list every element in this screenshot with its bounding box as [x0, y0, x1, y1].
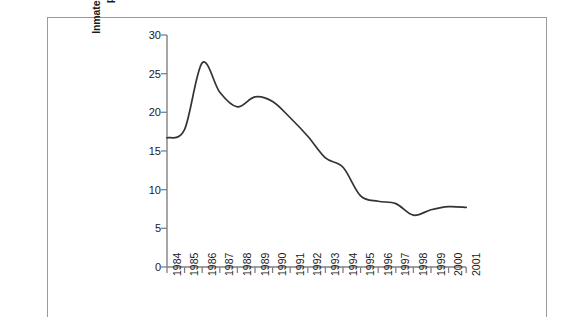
y-tick-label: 5	[135, 223, 161, 234]
y-tick-label: 10	[135, 185, 161, 196]
x-tick-label: 1989	[260, 253, 271, 276]
y-tick-label: 30	[135, 30, 161, 41]
x-tick-label: 1991	[295, 253, 306, 276]
x-tick-label: 1995	[365, 253, 376, 276]
x-tick-label: 1985	[189, 253, 200, 276]
x-tick-label: 1984	[172, 253, 183, 276]
x-tick-label: 1988	[242, 253, 253, 276]
data-series-line	[167, 62, 466, 215]
y-axis-ticks	[161, 35, 167, 267]
y-tick-label: 15	[135, 146, 161, 157]
x-tick-label: 2001	[471, 253, 482, 276]
y-tick-label: 0	[135, 262, 161, 273]
x-tick-label: 1999	[436, 253, 447, 276]
x-tick-label: 1986	[207, 253, 218, 276]
y-tick-label: 25	[135, 69, 161, 80]
x-tick-label: 2000	[453, 253, 464, 276]
x-tick-label: 1992	[312, 253, 323, 276]
x-tick-label: 1996	[383, 253, 394, 276]
x-tick-label: 1998	[418, 253, 429, 276]
x-tick-label: 1993	[330, 253, 341, 276]
x-tick-label: 1990	[277, 253, 288, 276]
x-tick-label: 1994	[348, 253, 359, 276]
x-tick-label: 1997	[400, 253, 411, 276]
x-tick-label: 1987	[224, 253, 235, 276]
y-tick-label: 20	[135, 107, 161, 118]
